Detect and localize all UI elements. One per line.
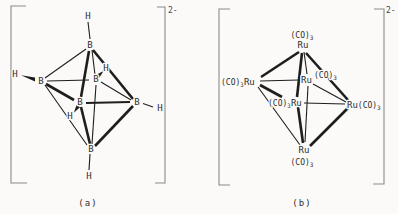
- atom-a-h-left: H: [12, 69, 17, 79]
- co-subscript: 3: [333, 74, 337, 81]
- structure-a: 2- H B H B B H B H B H B H (a): [11, 6, 178, 208]
- atom-a-h-bottom: H: [86, 171, 91, 181]
- label-b-right: Ru(CO)3: [347, 100, 381, 111]
- atom-a-b-back: B: [93, 74, 98, 84]
- label-b-front: (CO)3Ru: [268, 98, 302, 109]
- co-text: (CO): [221, 78, 240, 87]
- bond-b-bottom-right: [310, 108, 348, 146]
- bond-b-front-bottom: [298, 107, 303, 143]
- bracket-b-right: [373, 9, 384, 184]
- label-b-back-carbonyl: (CO)3: [314, 71, 337, 81]
- bond-a-htop-btop: [88, 22, 90, 39]
- bond-a-back-bottom: [92, 85, 96, 144]
- co-text: (CO): [291, 31, 310, 40]
- bond-a-top-front: [81, 51, 89, 97]
- bond-b-back-bottom: [305, 86, 308, 142]
- atom-a-h-top: H: [85, 11, 90, 21]
- bond-b-left-back: [260, 80, 299, 81]
- bond-a-bright-hright: [143, 104, 153, 108]
- co-subscript: 3: [310, 161, 314, 168]
- bracket-a-right: [155, 7, 165, 183]
- co-subscript: 3: [377, 104, 381, 111]
- cluster-diagram-figure: 2- H B H B B H B H B H B H (a): [0, 0, 398, 214]
- atom-a-b-bottom: B: [88, 144, 93, 154]
- label-b-left: (CO)3Ru: [221, 77, 255, 88]
- atom-b-ru-left: Ru: [244, 77, 255, 87]
- atom-a-h-back: H: [103, 63, 108, 73]
- atom-b-ru-right: Ru: [347, 100, 358, 110]
- atom-b-ru-back: Ru: [301, 75, 312, 85]
- bond-a-bbottom-hbottom: [89, 154, 90, 170]
- co-subscript: 3: [310, 34, 314, 41]
- bracket-a-left: [11, 6, 27, 183]
- atom-b-ru-front: Ru: [291, 98, 302, 108]
- caption-b: (b): [292, 198, 311, 208]
- bond-b-front-right: [304, 103, 345, 104]
- bond-b-top-left: [261, 52, 299, 77]
- wedge-a-hleft-bleft: [21, 75, 35, 81]
- co-text: (CO): [314, 71, 333, 80]
- co-text: (CO): [358, 101, 377, 110]
- atom-a-h-right: H: [157, 103, 162, 113]
- bracket-b-left: [219, 9, 230, 185]
- charge-b: 2-: [386, 6, 396, 15]
- atom-a-b-top: B: [87, 40, 92, 50]
- atom-a-b-left: B: [38, 76, 43, 86]
- structure-b: 2- (CO)3 Ru (CO)3Ru Ru (CO)3 (CO)3Ru Ru(…: [219, 6, 396, 208]
- caption-a: (a): [78, 198, 97, 208]
- co-text: (CO): [268, 99, 287, 108]
- bond-a-bottom-right: [95, 106, 133, 146]
- diagram-canvas: 2- H B H B B H B H B H B H (a): [0, 0, 398, 214]
- bond-a-front-right: [86, 102, 130, 103]
- bond-a-top-left: [45, 49, 86, 78]
- co-text: (CO): [291, 158, 310, 167]
- atom-a-b-right: B: [134, 97, 139, 107]
- label-b-bottom-carbonyl: (CO)3: [291, 158, 314, 168]
- charge-a: 2-: [168, 6, 178, 15]
- atom-b-ru-top: Ru: [298, 40, 309, 50]
- atom-b-ru-bottom: Ru: [299, 145, 310, 155]
- atom-a-b-front: B: [77, 97, 82, 107]
- atom-a-h-front: H: [67, 111, 72, 121]
